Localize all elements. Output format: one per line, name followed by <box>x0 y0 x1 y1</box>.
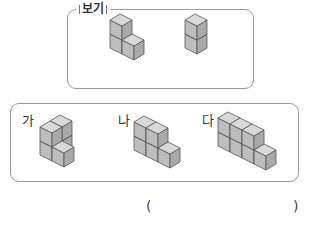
cube-figures <box>0 0 314 234</box>
answer-close-paren: ) <box>293 198 298 214</box>
answer-open-paren: ( <box>146 198 151 214</box>
